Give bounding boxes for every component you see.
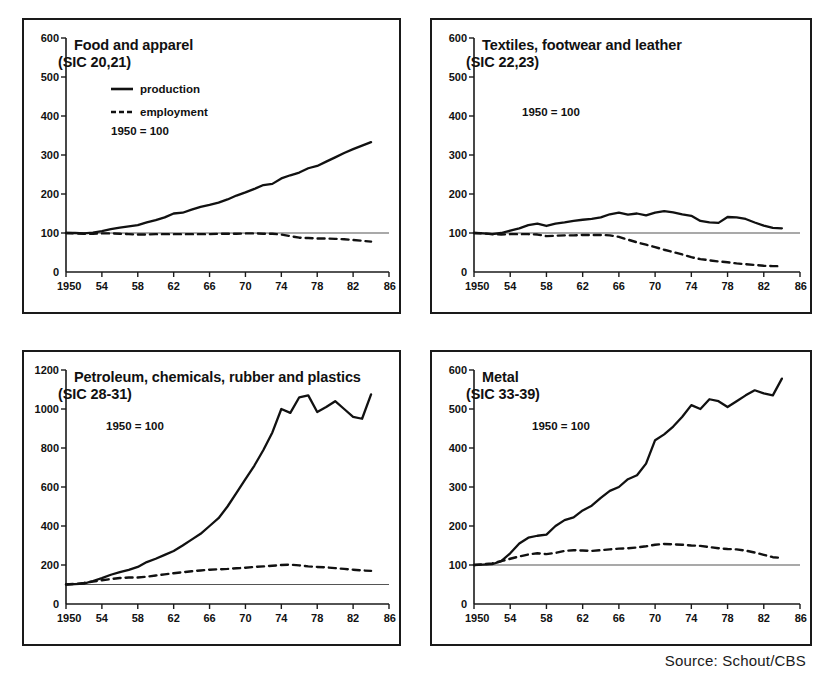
x-tick-label: 54 [504, 612, 517, 624]
x-tick-label: 86 [384, 612, 396, 624]
x-tick-label: 74 [685, 612, 698, 624]
y-tick-label: 300 [449, 149, 467, 161]
chart-title: Textiles, footwear and leather [482, 37, 682, 53]
y-tick-label: 500 [41, 71, 59, 83]
chart-svg: 0100200300400500600195054586266707478828… [432, 20, 810, 312]
chart-panel-textiles-footwear-and-leather: 0100200300400500600195054586266707478828… [430, 18, 812, 314]
chart-subtitle: (SIC 22,23) [466, 54, 539, 70]
y-tick-label: 100 [41, 227, 59, 239]
chart-panel-petroleum-chemicals-rubber-and-plastics: 0200400600800100012001950545862667074788… [22, 350, 401, 646]
x-tick-label: 54 [96, 612, 109, 624]
x-tick-label: 78 [311, 280, 323, 292]
base-year-annotation: 1950 = 100 [111, 125, 169, 137]
x-tick-label: 86 [384, 280, 396, 292]
y-tick-label: 0 [53, 598, 59, 610]
x-tick-label: 66 [613, 612, 625, 624]
y-tick-label: 500 [449, 403, 467, 415]
x-tick-label: 78 [311, 612, 323, 624]
x-tick-label: 1950 [465, 280, 489, 292]
y-tick-label: 300 [41, 149, 59, 161]
y-tick-label: 200 [449, 520, 467, 532]
x-tick-label: 74 [275, 280, 288, 292]
x-tick-label: 78 [721, 280, 733, 292]
x-tick-label: 58 [540, 280, 552, 292]
y-tick-label: 200 [41, 559, 59, 571]
y-tick-label: 600 [449, 364, 467, 376]
chart-subtitle: (SIC 28-31) [58, 386, 132, 402]
x-tick-label: 66 [203, 612, 215, 624]
chart-panel-metal: 0100200300400500600195054586266707478828… [430, 350, 812, 646]
x-tick-label: 70 [649, 612, 661, 624]
y-tick-label: 400 [41, 520, 59, 532]
x-tick-label: 74 [685, 280, 698, 292]
base-year-annotation: 1950 = 100 [522, 106, 580, 118]
x-tick-label: 66 [613, 280, 625, 292]
x-tick-label: 62 [577, 612, 589, 624]
legend-label-employment: employment [140, 106, 208, 118]
x-tick-label: 62 [577, 280, 589, 292]
x-tick-label: 54 [504, 280, 517, 292]
x-tick-label: 74 [275, 612, 288, 624]
x-tick-label: 1950 [57, 612, 81, 624]
x-tick-label: 86 [795, 612, 807, 624]
y-tick-label: 600 [41, 481, 59, 493]
series-line-employment [474, 233, 782, 266]
x-tick-label: 58 [132, 280, 144, 292]
y-tick-label: 100 [449, 559, 467, 571]
figure-panel-grid: 0100200300400500600195054586266707478828… [0, 0, 820, 681]
y-tick-label: 0 [461, 266, 467, 278]
x-tick-label: 70 [649, 280, 661, 292]
y-tick-label: 100 [449, 227, 467, 239]
x-tick-label: 82 [347, 612, 359, 624]
y-tick-label: 400 [449, 110, 467, 122]
chart-svg: 0200400600800100012001950545862667074788… [24, 352, 399, 644]
y-tick-label: 800 [41, 442, 59, 454]
y-tick-label: 600 [449, 32, 467, 44]
series-line-production [474, 379, 782, 565]
y-tick-label: 400 [41, 110, 59, 122]
y-tick-label: 200 [41, 188, 59, 200]
base-year-annotation: 1950 = 100 [106, 420, 164, 432]
x-tick-label: 1950 [465, 612, 489, 624]
y-tick-label: 0 [53, 266, 59, 278]
x-tick-label: 1950 [57, 280, 81, 292]
series-line-employment [474, 544, 782, 565]
base-year-annotation: 1950 = 100 [532, 420, 590, 432]
series-line-production [66, 142, 371, 233]
y-tick-label: 600 [41, 32, 59, 44]
x-tick-label: 54 [96, 280, 109, 292]
source-note: Source: Schout/CBS [665, 652, 806, 669]
chart-svg: 0100200300400500600195054586266707478828… [24, 20, 399, 312]
x-tick-label: 70 [239, 280, 251, 292]
chart-svg: 0100200300400500600195054586266707478828… [432, 352, 810, 644]
y-tick-label: 500 [449, 71, 467, 83]
x-tick-label: 58 [132, 612, 144, 624]
chart-title: Metal [482, 369, 519, 385]
x-tick-label: 82 [758, 612, 770, 624]
chart-title: Food and apparel [74, 37, 193, 53]
x-tick-label: 70 [239, 612, 251, 624]
y-tick-label: 200 [449, 188, 467, 200]
series-line-employment [66, 233, 371, 242]
chart-title: Petroleum, chemicals, rubber and plastic… [74, 369, 361, 385]
y-tick-label: 300 [449, 481, 467, 493]
chart-panel-food-and-apparel: 0100200300400500600195054586266707478828… [22, 18, 401, 314]
x-tick-label: 86 [795, 280, 807, 292]
legend-label-production: production [140, 83, 200, 95]
x-tick-label: 62 [168, 612, 180, 624]
y-tick-label: 0 [461, 598, 467, 610]
x-tick-label: 78 [721, 612, 733, 624]
x-tick-label: 58 [540, 612, 552, 624]
series-line-production [474, 211, 782, 234]
y-tick-label: 400 [449, 442, 467, 454]
y-tick-label: 1000 [35, 403, 59, 415]
x-tick-label: 62 [168, 280, 180, 292]
x-tick-label: 66 [203, 280, 215, 292]
chart-subtitle: (SIC 20,21) [58, 54, 131, 70]
x-tick-label: 82 [347, 280, 359, 292]
chart-subtitle: (SIC 33-39) [466, 386, 540, 402]
y-tick-label: 1200 [35, 364, 59, 376]
x-tick-label: 82 [758, 280, 770, 292]
